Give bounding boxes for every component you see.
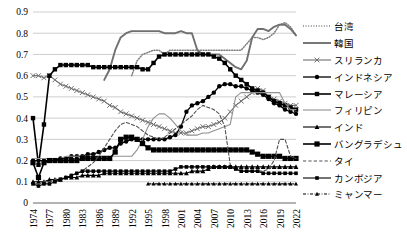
legend-item-1[interactable]: 台湾 [302,18,407,35]
data-point-marker [244,147,249,152]
data-point-marker [217,84,221,88]
data-point-marker [217,147,222,152]
data-point-marker [86,152,90,156]
data-point-marker [80,63,84,67]
data-point-marker [255,88,259,92]
data-point-marker [212,165,216,169]
data-point-marker [30,160,35,165]
legend-item-label: ミャンマー [332,187,383,201]
x-axis-tick-label: 2010 [226,209,236,228]
data-point-marker [107,156,112,161]
data-point-marker [283,171,287,175]
data-point-marker [234,84,238,88]
legend-item-label: インドネシア [332,70,393,84]
legend-item-label: バングラデシュ [332,137,403,151]
data-point-marker [69,63,73,67]
legend-item-3[interactable]: スリランカ [302,52,407,69]
data-point-marker [206,52,210,56]
x-axis-tick-label: 2022 [292,209,302,228]
data-point-marker [113,149,118,154]
legend-item-6[interactable]: フィリピン [302,102,407,119]
data-point-marker [250,86,254,90]
data-point-marker [294,112,298,116]
data-point-marker [146,67,150,71]
data-point-marker [189,147,194,152]
legend-line-solid-thick [302,37,332,49]
data-point-marker [70,174,74,178]
data-point-marker [135,137,140,142]
data-point-marker [81,169,85,173]
x-axis-tick-label: 1986 [95,209,105,228]
legend-item-2[interactable]: 韓国 [302,35,407,52]
y-axis-tick-label: 0.4 [16,114,28,124]
data-point-marker [69,158,74,163]
data-point-marker [118,109,123,114]
data-point-marker [75,171,79,175]
data-point-marker [118,65,122,69]
x-axis-tick-label: 1980 [62,209,72,228]
legend-item-7[interactable]: インド [302,119,407,136]
data-point-marker [124,135,129,140]
data-point-marker [31,116,35,120]
data-point-marker [31,182,35,186]
legend-item-label: 韓国 [332,36,354,50]
legend-item-label: スリランカ [332,53,383,67]
data-point-marker [272,99,276,103]
data-point-marker [179,165,183,169]
legend-line-solid-thin [302,104,332,116]
x-axis-tick-label: 1989 [111,209,121,228]
legend-item-10[interactable]: カンボジア [302,169,407,186]
legend-item-label: フィリピン [332,103,383,117]
data-point-marker [250,169,254,173]
data-point-marker [91,156,96,161]
data-point-marker [168,169,172,173]
data-point-marker [278,171,282,175]
data-point-marker [91,152,95,156]
legend-line-marker-triangle [302,121,332,133]
data-point-marker [151,122,156,127]
data-point-marker [85,156,90,161]
data-point-marker [52,158,57,163]
data-point-marker [59,178,63,182]
data-point-marker [108,169,112,173]
y-axis-tick-label: 0.9 [16,7,28,17]
chart-legend: 台湾韓国スリランカインドネシアマレーシアフィリピンインドバングラデシュタイカンボ… [302,18,407,203]
data-point-marker [261,171,265,175]
legend-item-8[interactable]: バングラデシュ [302,136,407,153]
legend-item-11[interactable]: ミャンマー [302,186,407,203]
data-point-marker [162,147,167,152]
data-point-marker [108,65,112,69]
data-point-marker [85,92,90,97]
data-point-marker [173,52,177,56]
data-point-marker [102,156,107,161]
data-point-marker [47,73,51,77]
legend-item-9[interactable]: タイ [302,152,407,169]
legend-item-4[interactable]: インドネシア [302,68,407,85]
data-point-marker [102,65,106,69]
data-point-marker [145,145,150,150]
x-axis-tick-label: 2007 [210,209,220,228]
data-point-marker [234,167,238,171]
data-point-marker [63,158,68,163]
data-point-marker [190,165,194,169]
x-axis-tick-label: 2013 [243,209,253,228]
legend-line-marker-square-small [302,172,332,184]
legend-item-5[interactable]: マレーシア [302,85,407,102]
data-point-marker [185,165,189,169]
data-point-marker [239,147,244,152]
legend-item-label: カンボジア [332,171,383,185]
y-axis-tick-label: 0.5 [16,92,28,102]
x-axis-tick-label: 1998 [161,209,171,228]
data-point-marker [157,124,162,129]
x-axis-tick-label: 1995 [144,209,154,228]
data-point-marker [64,63,68,67]
y-axis-tick-label: 0.2 [16,156,28,166]
data-point-marker [156,147,161,152]
data-point-marker [151,147,156,152]
data-point-marker [152,169,156,173]
data-point-marker [91,65,95,69]
data-point-marker [195,147,200,152]
data-point-marker [244,82,248,86]
data-point-marker [53,78,58,83]
y-axis-tick-label: 0.1 [16,177,28,187]
